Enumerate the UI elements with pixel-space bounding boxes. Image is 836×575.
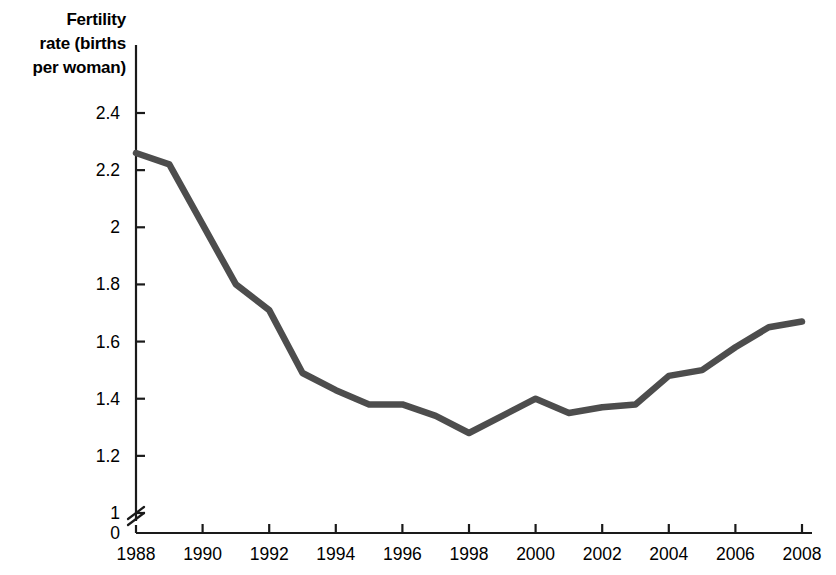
y-tick-label: 1.4	[96, 389, 121, 409]
y-tick-label: 2.4	[96, 103, 121, 123]
x-tick-label: 1994	[316, 544, 355, 564]
y-axis-tick-marks	[136, 113, 145, 513]
y-tick-label: 1.2	[96, 446, 120, 466]
fertility-rate-line-chart: Fertility rate (births per woman) 011.21…	[0, 0, 836, 575]
x-tick-label: 1998	[450, 544, 489, 564]
x-axis-tick-marks	[203, 524, 802, 533]
x-tick-label: 1990	[183, 544, 222, 564]
chart-plot-area: 011.21.41.61.822.22.4 198819901992199419…	[0, 0, 836, 575]
y-tick-label: 1	[110, 503, 120, 523]
x-axis-tick-labels: 1988199019921994199619982000200220042006…	[117, 544, 822, 564]
y-tick-label: 2.2	[96, 160, 120, 180]
x-tick-label: 2006	[716, 544, 755, 564]
y-axis-title: Fertility rate (births per woman)	[0, 8, 126, 80]
x-tick-label: 2002	[583, 544, 622, 564]
y-axis-tick-labels: 011.21.41.61.822.22.4	[96, 103, 121, 543]
y-tick-label: 1.6	[96, 332, 120, 352]
x-tick-label: 1992	[250, 544, 289, 564]
x-tick-label: 1988	[117, 544, 156, 564]
x-tick-label: 2004	[649, 544, 688, 564]
y-tick-label: 2	[110, 217, 120, 237]
y-tick-label: 1.8	[96, 274, 120, 294]
y-tick-label: 0	[110, 523, 120, 543]
fertility-rate-series-line	[136, 153, 802, 433]
x-tick-label: 1996	[383, 544, 422, 564]
x-tick-label: 2000	[516, 544, 555, 564]
x-tick-label: 2008	[783, 544, 822, 564]
